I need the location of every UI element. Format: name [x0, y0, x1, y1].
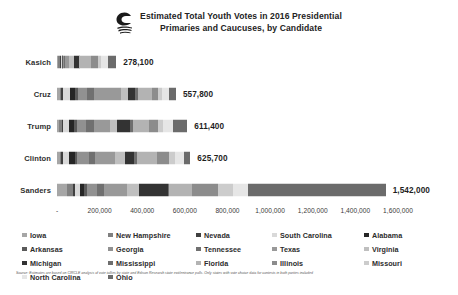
legend-item[interactable]: Alabama: [364, 231, 444, 240]
page-title: Estimated Total Youth Votes in 2016 Pres…: [140, 11, 342, 34]
legend-swatch-icon: [272, 261, 277, 266]
bar-segment: [127, 184, 138, 197]
legend-item[interactable]: Illinois: [272, 259, 364, 268]
legend-item[interactable]: Georgia: [108, 245, 196, 254]
bar-value-label: 625,700: [197, 154, 227, 163]
legend-swatch-icon: [108, 247, 113, 252]
bar-segment: [233, 184, 248, 197]
bar-segment: [115, 152, 125, 165]
bar-segment: [104, 184, 128, 197]
legend-swatch-icon: [364, 247, 369, 252]
legend-swatch-icon: [364, 261, 369, 266]
legend-label: Missouri: [372, 259, 402, 268]
legend-swatch-icon: [364, 233, 369, 238]
legend-swatch-icon: [108, 261, 113, 266]
legend-label: Mississippi: [116, 259, 155, 268]
bar-row: Cruz557,800: [0, 79, 458, 109]
bar-segment: [162, 88, 169, 101]
x-axis-tick-label: 200,000: [88, 207, 112, 214]
legend-item[interactable]: Virginia: [364, 245, 444, 254]
legend-swatch-icon: [272, 247, 277, 252]
category-label: Cruz: [0, 90, 51, 99]
legend-swatch-icon: [196, 261, 201, 266]
legend-swatch-icon: [108, 275, 113, 280]
bar-segment: [138, 88, 152, 101]
bar-segment: [78, 88, 88, 101]
x-axis: -200,000400,000600,000800,0001,000,0001,…: [0, 207, 458, 220]
bar-segment: [117, 120, 129, 133]
legend-label: Arkansas: [30, 245, 63, 254]
stacked-bar[interactable]: [57, 88, 176, 101]
bar-segment: [91, 56, 98, 69]
category-label: Sanders: [0, 186, 51, 195]
category-label: Trump: [0, 122, 51, 131]
bar-segment: [175, 152, 183, 165]
bar-segment: [163, 120, 173, 133]
bar-segment: [110, 120, 118, 133]
source-footnote: Source: Estimates are based on CIRCLE an…: [16, 271, 446, 275]
bar-value-label: 557,800: [183, 90, 213, 99]
bar-segment: [63, 152, 70, 165]
bar-segment: [128, 88, 135, 101]
bar-segment: [94, 88, 121, 101]
x-axis-tick-label: 1,000,000: [255, 207, 285, 214]
bar-segment: [95, 152, 115, 165]
bar-segment: [77, 152, 88, 165]
legend-item[interactable]: Texas: [272, 245, 364, 254]
bar-segment: [139, 184, 168, 197]
legend-swatch-icon: [22, 261, 27, 266]
legend-item[interactable]: Florida: [196, 259, 272, 268]
legend-item[interactable]: Tennessee: [196, 245, 272, 254]
bar-segment: [192, 184, 218, 197]
bar-row: Kasich278,100: [0, 47, 458, 77]
legend-item[interactable]: Mississippi: [108, 259, 196, 268]
legend-label: South Carolina: [280, 231, 332, 240]
bar-segment: [87, 88, 94, 101]
bar-segment: [108, 56, 116, 69]
bar-segment: [157, 152, 169, 165]
legend-swatch-icon: [22, 275, 27, 280]
title-line-1: Estimated Total Youth Votes in 2016 Pres…: [140, 11, 342, 23]
legend-label: Tennessee: [204, 245, 241, 254]
bar-segment: [57, 184, 67, 197]
bar-segment: [149, 120, 158, 133]
legend-item[interactable]: Missouri: [364, 259, 444, 268]
legend-label: Georgia: [116, 245, 144, 254]
x-axis-tick-label: 1,600,000: [383, 207, 413, 214]
legend-label: Iowa: [30, 231, 46, 240]
stacked-bar[interactable]: [57, 56, 116, 69]
legend-item[interactable]: Nevada: [196, 231, 272, 240]
bar-row: Trump611,400: [0, 111, 458, 141]
bar-segment: [173, 120, 187, 133]
bar-segment: [79, 56, 91, 69]
legend-item[interactable]: New Hampshire: [108, 231, 196, 240]
bar-segment: [94, 120, 109, 133]
legend-item[interactable]: Michigan: [22, 259, 108, 268]
x-axis-tick-label: 1,200,000: [298, 207, 328, 214]
legend-swatch-icon: [22, 233, 27, 238]
legend-label: Florida: [204, 259, 228, 268]
bar-segment: [101, 56, 108, 69]
stacked-bar[interactable]: [57, 184, 386, 197]
legend-label: New Hampshire: [116, 231, 171, 240]
bar-segment: [248, 184, 386, 197]
bar-segment: [133, 120, 150, 133]
bar-segment: [137, 152, 157, 165]
legend-item[interactable]: South Carolina: [272, 231, 364, 240]
bar-segment: [86, 120, 94, 133]
chart-container: Estimated Total Youth Votes in 2016 Pres…: [0, 0, 458, 295]
bar-row: Sanders1,542,000: [0, 175, 458, 205]
legend-swatch-icon: [22, 247, 27, 252]
stacked-bar[interactable]: [57, 120, 187, 133]
legend-item[interactable]: Iowa: [22, 231, 108, 240]
legend-label: Texas: [280, 245, 300, 254]
x-axis-tick-label: 400,000: [130, 207, 154, 214]
bar-value-label: 278,100: [123, 58, 153, 67]
category-label: Kasich: [0, 58, 51, 67]
title-line-2: Primaries and Caucuses, by Candidate: [140, 23, 342, 35]
legend-item[interactable]: Arkansas: [22, 245, 108, 254]
chart-legend: IowaNew HampshireNevadaSouth CarolinaAla…: [22, 228, 442, 284]
x-axis-tick-label: 800,000: [215, 207, 239, 214]
bar-segment: [87, 184, 97, 197]
stacked-bar[interactable]: [57, 152, 190, 165]
